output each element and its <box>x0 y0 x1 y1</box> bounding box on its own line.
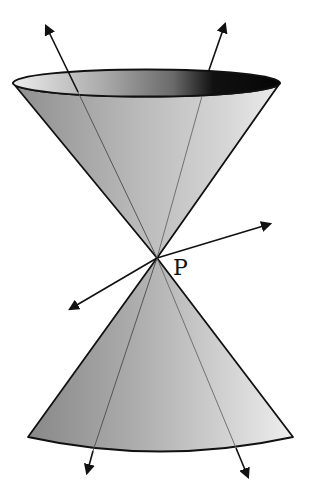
future-right-arrow <box>209 24 225 70</box>
light-cone-diagram: P <box>0 0 318 498</box>
future-cone-rim <box>13 70 280 97</box>
event-label-p: P <box>173 255 188 280</box>
past-left-arrow <box>87 451 93 473</box>
past-cone <box>28 258 293 452</box>
future-cone <box>13 83 280 258</box>
past-right-arrow <box>236 448 248 477</box>
